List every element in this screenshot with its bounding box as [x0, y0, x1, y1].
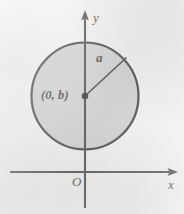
- radius-label: a: [96, 51, 103, 64]
- diagram-canvas: [0, 0, 184, 214]
- x-axis-label: x: [168, 178, 174, 191]
- origin-label: O: [72, 175, 81, 188]
- circle-center-label: (0, b): [41, 89, 69, 102]
- center-point-dot: [82, 93, 89, 100]
- geometry-figure: y x O a (0, b): [0, 0, 184, 214]
- x-axis: [10, 168, 178, 176]
- y-axis-label: y: [93, 11, 99, 24]
